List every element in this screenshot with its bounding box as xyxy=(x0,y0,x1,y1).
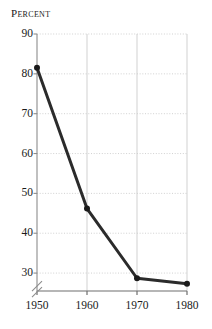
chart-plot-svg xyxy=(37,34,187,291)
data-point-1970 xyxy=(134,275,140,281)
data-series-line xyxy=(37,68,187,284)
x-tick-label-1950: 1950 xyxy=(26,300,49,312)
data-series-markers xyxy=(34,65,190,287)
x-tick-label-1980: 1980 xyxy=(176,300,199,312)
vertical-gridlines xyxy=(87,34,187,291)
x-tick-label-1960: 1960 xyxy=(76,300,99,312)
series-percent-line xyxy=(37,68,187,284)
axis-lines xyxy=(37,34,187,291)
data-point-1950 xyxy=(34,65,40,71)
x-tick-label-1970: 1970 xyxy=(126,300,149,312)
plot-area xyxy=(37,34,187,291)
data-point-1980 xyxy=(184,281,190,287)
data-point-1960 xyxy=(84,206,90,212)
chart-figure: Percent 90807060504030 1950196019701980 xyxy=(0,0,212,329)
horizontal-gridlines xyxy=(37,34,187,273)
